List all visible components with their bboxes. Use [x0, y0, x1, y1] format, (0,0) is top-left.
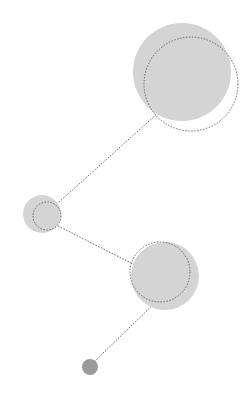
node-dot — [82, 359, 98, 375]
node-left — [23, 195, 61, 233]
edge-bottom-dot — [95, 298, 160, 361]
bubble-network-diagram — [0, 0, 252, 398]
connector-lines — [58, 113, 160, 361]
node-fill-circle — [133, 23, 231, 121]
edge-left-bottom — [58, 226, 135, 265]
node-bottom — [130, 242, 199, 310]
node-fill-circle — [82, 359, 98, 375]
node-fill-circle — [131, 242, 199, 310]
bubble-nodes — [23, 23, 238, 375]
edge-top-left — [58, 113, 158, 203]
node-top — [133, 23, 238, 131]
